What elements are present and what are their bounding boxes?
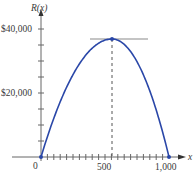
root-point [167, 155, 171, 159]
x-axis-label: x [187, 152, 193, 162]
y-tick-label-40000: $40,000 [1, 24, 32, 34]
y-axis-label: R(x) [30, 3, 47, 14]
vertex-point [110, 37, 114, 41]
x-tick-label-500: 500 [97, 162, 112, 172]
x-tick-label-0: 0 [33, 161, 38, 171]
y-tick-label-20000: $20,000 [1, 88, 32, 98]
revenue-chart: R(x) $40,000 $20,000 0 500 1,000 x [0, 0, 196, 177]
origin-point [39, 155, 43, 159]
revenue-curve [41, 39, 169, 157]
x-axis-arrow-icon [178, 155, 186, 160]
x-tick-label-1000: 1,000 [155, 162, 177, 172]
